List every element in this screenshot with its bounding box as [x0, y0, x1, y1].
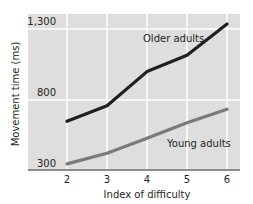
x-axis-ticks: 23456	[64, 174, 230, 185]
chart-container: 3008001,300 23456 Older adultsYoung adul…	[0, 0, 253, 204]
x-axis-label: Index of difficulty	[104, 189, 191, 200]
y-axis-label: Movement time (ms)	[10, 42, 21, 147]
series-label: Young adults	[166, 138, 231, 149]
x-tick-label: 6	[224, 174, 230, 185]
y-tick-label: 1,300	[27, 16, 56, 27]
line-chart: 3008001,300 23456 Older adultsYoung adul…	[0, 0, 253, 204]
y-tick-label: 800	[37, 87, 56, 98]
x-tick-label: 3	[104, 174, 110, 185]
x-tick-label: 5	[184, 174, 190, 185]
x-tick-label: 4	[144, 174, 150, 185]
series-label: Older adults	[143, 33, 204, 44]
x-tick-label: 2	[64, 174, 70, 185]
y-tick-label: 300	[37, 158, 56, 169]
